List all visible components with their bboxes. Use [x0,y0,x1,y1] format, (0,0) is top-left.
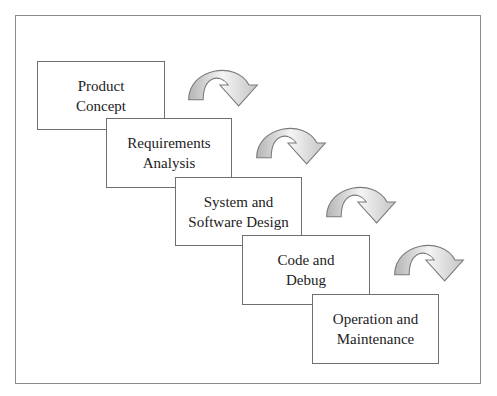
stage-label-line1: System and [204,192,274,212]
curved-arrow-icon [322,175,400,225]
curved-arrow-icon [390,233,468,283]
stage-label-line1: Requirements [127,133,210,153]
stage-label-line2: Concept [76,96,126,116]
stage-label-line2: Debug [286,270,326,290]
curved-arrow-icon [252,116,330,166]
curved-arrow-icon [184,58,262,108]
stage-label-line2: Analysis [143,153,196,173]
stage-label-line2: Maintenance [337,329,414,349]
stage-label-line2: Software Design [188,212,288,232]
stage-label-line1: Operation and [333,309,418,329]
diagram-canvas: Product Concept Requirements Analysis Sy… [0,0,497,396]
stage-label-line1: Product [78,76,125,96]
stage-box-operation-maintenance: Operation and Maintenance [312,294,439,364]
stage-label-line1: Code and [277,250,334,270]
